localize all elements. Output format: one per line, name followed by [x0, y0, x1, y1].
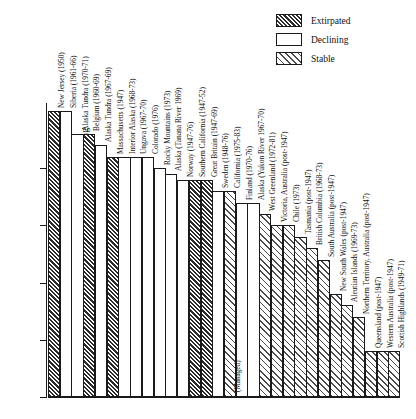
y-tick	[40, 340, 46, 341]
bar	[247, 203, 259, 397]
category-label: Sweden (1948-76)	[222, 133, 229, 188]
bar	[365, 351, 377, 397]
chart-figure: 05101520 Percent thinning New Jersey (19…	[0, 0, 416, 419]
category-label: British Columbia (1968-73)	[316, 163, 323, 246]
bar	[118, 157, 130, 397]
category-label: West Greenland (1972-81)	[269, 132, 276, 211]
category-label: Chile (1973)	[293, 185, 300, 223]
legend-swatch-stable	[276, 52, 302, 65]
bar	[306, 248, 318, 397]
bar	[60, 111, 72, 397]
bar	[377, 351, 389, 397]
legend-item: Extirpated	[276, 12, 412, 29]
category-label: New Jersey (1950)	[58, 52, 65, 108]
y-tick	[40, 283, 46, 284]
bar	[212, 191, 224, 397]
bar	[48, 111, 60, 397]
category-label: Finland (1970-76)	[246, 146, 253, 200]
category-label: Rocky Mountains (1973)	[164, 91, 171, 165]
legend-item: Declining	[276, 31, 412, 48]
category-label: Southern California (1947-52)	[199, 87, 206, 177]
category-label: Norway (1947-76)	[187, 121, 194, 176]
bar	[107, 157, 119, 397]
legend-label: Declining	[311, 35, 348, 45]
bar	[271, 225, 283, 397]
category-label: Alaska Tundra (1967-69)	[105, 68, 112, 143]
bar	[353, 317, 365, 397]
y-tick	[40, 225, 46, 226]
bar	[95, 145, 107, 397]
legend-label: Extirpated	[311, 16, 351, 26]
bar	[330, 294, 342, 397]
bar	[142, 157, 154, 397]
managed-annotation: (Managed)	[234, 360, 242, 392]
bar	[201, 180, 213, 397]
bar	[154, 168, 166, 397]
category-label: Alaska (Tanana River 1969)	[175, 87, 182, 170]
category-label: Colorado (1976)	[152, 105, 159, 154]
bar	[318, 260, 330, 397]
y-axis-line	[46, 103, 47, 398]
bar	[71, 134, 83, 397]
legend-swatch-extirpated	[276, 14, 302, 27]
bar	[294, 237, 306, 397]
bar	[259, 214, 271, 397]
category-label: Queensland (post-1947)	[375, 277, 382, 348]
category-label: Alaska (Yukon River 1967-70)	[258, 108, 265, 199]
bar	[130, 157, 142, 397]
category-label: Tasmania (post-1947)	[305, 169, 312, 234]
category-label: Siberia (1961-66)	[70, 56, 77, 108]
y-tick	[40, 397, 46, 398]
category-label: Ungava (1967-70)	[140, 99, 147, 153]
bar	[388, 351, 400, 397]
y-tick	[40, 168, 46, 169]
legend-item: Stable	[276, 50, 412, 67]
legend-swatch-declining	[276, 33, 302, 46]
category-label: Interior Alaska (1968-73)	[129, 78, 136, 154]
category-label: New South Wales (post-1947)	[340, 202, 347, 291]
category-label: Scottish Highlands (1949-71)	[398, 261, 405, 348]
category-label: Western Australia (post-1947)	[387, 259, 394, 348]
category-label: Northern Territory, Australia (post-1947…	[363, 193, 370, 314]
legend-label: Stable	[311, 54, 335, 64]
bar	[165, 174, 177, 397]
category-label: Great Britain (1947-69)	[211, 106, 218, 176]
category-label: Aleutian Islands (1969-73)	[351, 223, 358, 303]
category-label: South Australia (post-1947)	[328, 175, 335, 257]
category-label: California (1975-83)	[234, 127, 241, 188]
category-label: Belgium (1960-69)	[93, 74, 100, 131]
bar	[189, 180, 201, 397]
bar	[341, 305, 353, 397]
legend: ExtirpatedDecliningStable	[276, 12, 412, 69]
bar	[177, 180, 189, 397]
bar	[83, 134, 95, 397]
bar	[283, 225, 295, 397]
category-label: Alaska Tundra (1970-71)	[82, 56, 89, 131]
category-label: Massachusetts (1947)	[117, 90, 124, 154]
category-label: Victoria, Australia (post-1947)	[281, 132, 288, 222]
